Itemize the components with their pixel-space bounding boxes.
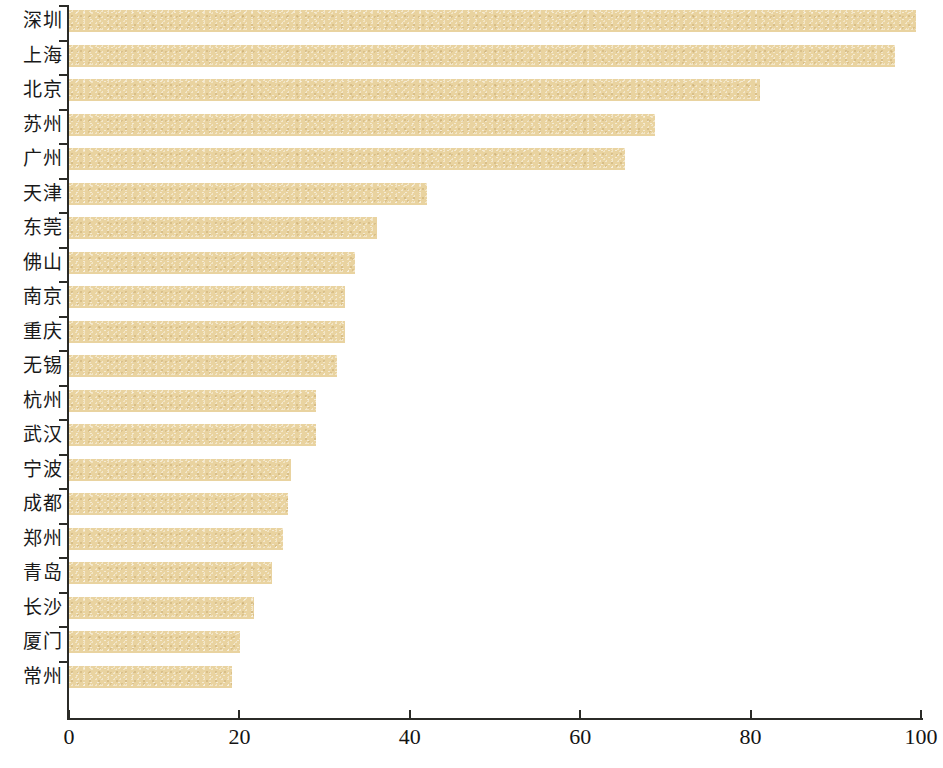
y-axis-label: 武汉 [1,424,63,446]
y-axis-tick [59,74,68,76]
y-axis-tick [59,385,68,387]
x-axis-tick [409,710,411,720]
bar [69,183,427,205]
y-axis-tick [59,419,68,421]
x-axis-tick [238,710,240,720]
y-axis-label: 佛山 [1,252,63,274]
x-axis-tick-label: 0 [39,724,99,750]
bar [69,10,916,32]
y-axis-label: 南京 [1,286,63,308]
y-axis-tick [59,5,68,7]
bar [69,562,272,584]
y-axis-tick [59,454,68,456]
y-axis-label: 常州 [1,666,63,688]
bar [69,666,232,688]
bar [69,528,283,550]
bar [69,597,254,619]
y-axis-label: 杭州 [1,390,63,412]
plot-area [69,5,921,718]
y-axis-label: 重庆 [1,321,63,343]
y-axis-tick [59,626,68,628]
bar [69,252,355,274]
y-axis-label: 长沙 [1,597,63,619]
y-axis-tick [59,592,68,594]
y-axis-tick [59,316,68,318]
x-axis-tick-label: 60 [550,724,610,750]
bar [69,114,655,136]
y-axis-tick [59,143,68,145]
x-axis-tick [579,710,581,720]
x-axis-tick-label: 40 [380,724,440,750]
y-axis-label: 厦门 [1,631,63,653]
bar [69,355,337,377]
y-axis-label: 东莞 [1,217,63,239]
bar [69,286,345,308]
y-axis-tick [59,40,68,42]
y-axis-label: 上海 [1,45,63,67]
x-axis-tick-label: 100 [891,724,943,750]
y-axis-label: 青岛 [1,562,63,584]
y-axis-label: 无锡 [1,355,63,377]
bar [69,217,377,239]
y-axis-label: 郑州 [1,528,63,550]
bar-chart: 深圳上海北京苏州广州天津东莞佛山南京重庆无锡杭州武汉宁波成都郑州青岛长沙厦门常州… [0,0,943,768]
bar [69,321,345,343]
y-axis-label: 广州 [1,148,63,170]
y-axis-tick [59,109,68,111]
y-axis-label: 成都 [1,493,63,515]
y-axis-tick [59,247,68,249]
y-axis-tick [59,523,68,525]
bar [69,390,316,412]
y-axis-tick [59,350,68,352]
bar [69,148,625,170]
x-axis-tick-label: 20 [209,724,269,750]
y-axis-label: 深圳 [1,10,63,32]
y-axis-tick [59,212,68,214]
bar [69,459,291,481]
y-axis-label: 苏州 [1,114,63,136]
bar [69,45,895,67]
y-axis-tick [59,557,68,559]
y-axis-tick [59,488,68,490]
bar [69,493,288,515]
y-axis-category-labels: 深圳上海北京苏州广州天津东莞佛山南京重庆无锡杭州武汉宁波成都郑州青岛长沙厦门常州 [0,5,63,719]
y-axis-label: 天津 [1,183,63,205]
y-axis-label: 北京 [1,79,63,101]
x-axis-tick [750,710,752,720]
x-axis-tick [920,710,922,720]
y-axis-tick [59,281,68,283]
x-axis-line [67,718,923,720]
y-axis-tick [59,661,68,663]
y-axis-tick [59,178,68,180]
y-axis-label: 宁波 [1,459,63,481]
x-axis-tick-label: 80 [721,724,781,750]
bar [69,424,316,446]
bar [69,631,240,653]
bar [69,79,760,101]
x-axis-tick [68,710,70,720]
